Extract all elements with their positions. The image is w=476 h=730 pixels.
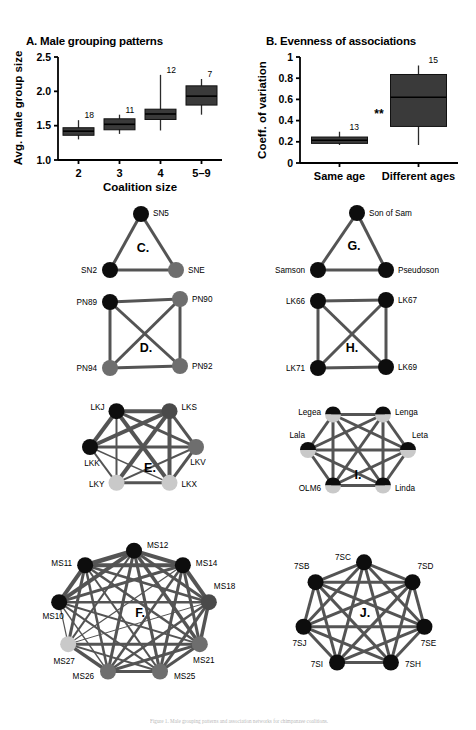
panel-b-y-tick-label: 0.2 <box>278 135 293 147</box>
network-node[interactable] <box>172 291 188 307</box>
panel-a-n-label: 18 <box>85 110 95 120</box>
network-edge-h <box>318 300 386 301</box>
network-node-label: MS11 <box>51 559 72 568</box>
panel-a-y-tick-label: 2.0 <box>36 85 51 97</box>
node-circle <box>77 557 93 573</box>
network-node[interactable] <box>416 619 432 635</box>
panel-b-y-tick-label: 0.4 <box>278 114 293 126</box>
network-node[interactable] <box>60 636 76 652</box>
node-circle <box>329 654 345 670</box>
panel-j-letter: J. <box>360 606 370 620</box>
network-node[interactable] <box>356 554 372 570</box>
panel-b-x-tick-label: Same age <box>314 170 365 182</box>
network-node[interactable] <box>378 292 394 308</box>
node-circle <box>378 292 394 308</box>
network-node-label: SN2 <box>81 266 97 275</box>
network-node[interactable] <box>192 636 208 652</box>
network-node[interactable] <box>378 262 394 278</box>
network-node-label: LKS <box>182 403 198 412</box>
node-circle <box>100 664 116 680</box>
panel-a-n-label: 12 <box>167 65 177 75</box>
network-node[interactable] <box>126 543 142 559</box>
node-circle <box>172 291 188 307</box>
network-node-label: MS18 <box>214 582 236 591</box>
network-node[interactable] <box>300 442 316 458</box>
network-node[interactable] <box>162 475 178 491</box>
network-node-label: Son of Sam <box>369 209 412 218</box>
network-node[interactable] <box>175 557 191 573</box>
network-node[interactable] <box>77 557 93 573</box>
network-node-label: LK66 <box>286 297 306 306</box>
network-node[interactable] <box>102 360 118 376</box>
network-node[interactable] <box>404 574 420 590</box>
node-half-top <box>375 406 391 414</box>
node-circle <box>60 636 76 652</box>
network-node[interactable] <box>168 262 184 278</box>
network-node[interactable] <box>109 475 125 491</box>
network-node[interactable] <box>310 262 326 278</box>
panel-b-y-tick-label: 0.6 <box>278 93 293 105</box>
network-node[interactable] <box>325 406 341 422</box>
panel-a-y-tick-label: 1.0 <box>36 154 51 166</box>
network-node[interactable] <box>308 574 324 590</box>
network-node-label: LK71 <box>286 364 306 373</box>
node-circle <box>349 205 365 221</box>
network-node-label: 7SH <box>405 660 421 669</box>
network-node[interactable] <box>51 594 67 610</box>
node-half-top <box>325 406 341 414</box>
network-node[interactable] <box>201 594 217 610</box>
node-circle <box>102 262 118 278</box>
panel-a-y-tick-label: 1.5 <box>36 119 51 131</box>
panel-a-x-tick-label: 4 <box>157 167 164 179</box>
network-node[interactable] <box>162 403 178 419</box>
network-node[interactable] <box>102 262 118 278</box>
panel-a-y-tick-label: 2.5 <box>36 51 51 63</box>
node-circle <box>310 293 326 309</box>
panel-a-x-axis-label: Coalition size <box>103 181 177 193</box>
node-circle <box>192 636 208 652</box>
node-circle <box>175 557 191 573</box>
network-node-label: Samson <box>275 266 305 275</box>
node-circle <box>162 403 178 419</box>
network-node[interactable] <box>172 358 188 374</box>
node-circle <box>308 574 324 590</box>
panel-b-y-tick-label: 1 <box>287 51 293 63</box>
node-circle <box>356 554 372 570</box>
network-node[interactable] <box>188 439 204 455</box>
network-node[interactable] <box>378 359 394 375</box>
panel-b-n-label: 13 <box>350 122 360 132</box>
panel-f-letter: F. <box>135 606 145 620</box>
node-circle <box>310 262 326 278</box>
network-node-label: MS25 <box>174 672 196 681</box>
panel-i-letter: I. <box>355 468 362 482</box>
node-circle <box>378 262 394 278</box>
node-circle <box>51 594 67 610</box>
network-node[interactable] <box>349 205 365 221</box>
network-node[interactable] <box>133 206 149 222</box>
network-node[interactable] <box>329 654 345 670</box>
network-node[interactable] <box>310 293 326 309</box>
network-node-label: Leta <box>412 431 428 440</box>
network-node[interactable] <box>109 403 125 419</box>
panel-a-title: A. Male grouping patterns <box>26 35 163 47</box>
network-node[interactable] <box>102 294 118 310</box>
network-node-label: MS12 <box>147 541 169 550</box>
panel-c-letter: C. <box>137 241 150 255</box>
network-node[interactable] <box>82 439 98 455</box>
network-node[interactable] <box>100 664 116 680</box>
network-node-label: LKK <box>84 459 100 468</box>
network-node[interactable] <box>383 654 399 670</box>
network-node[interactable] <box>325 478 341 494</box>
network-node[interactable] <box>152 664 168 680</box>
panel-b-x-tick-label: Different ages <box>382 170 455 182</box>
network-node-label: MS26 <box>73 672 95 681</box>
network-node-label: MS27 <box>53 657 75 666</box>
network-node[interactable] <box>296 619 312 635</box>
network-node-label: Legea <box>298 408 321 417</box>
network-node[interactable] <box>310 360 326 376</box>
network-node[interactable] <box>400 442 416 458</box>
network-node-label: LKV <box>190 458 206 467</box>
network-node[interactable] <box>375 406 391 422</box>
network-node[interactable] <box>375 478 391 494</box>
network-node-label: 7SB <box>294 562 310 571</box>
